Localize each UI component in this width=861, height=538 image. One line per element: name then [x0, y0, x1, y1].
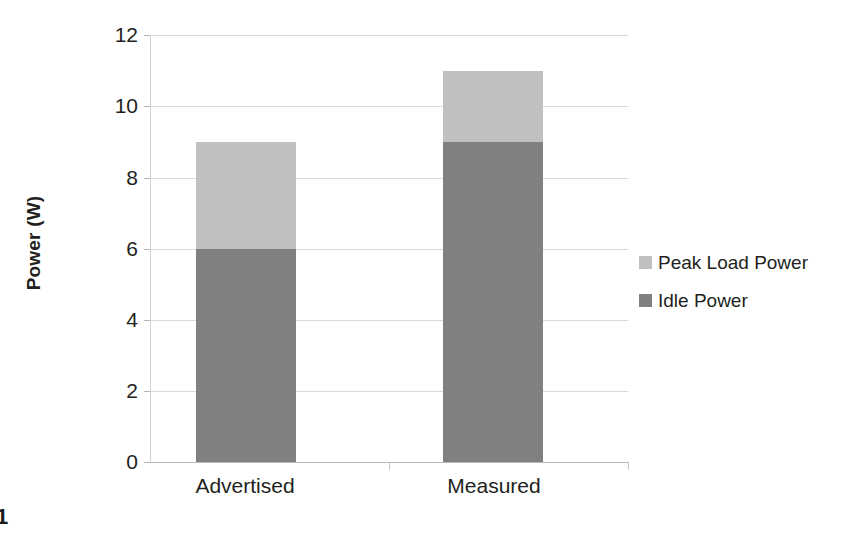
y-tick-6: 6 [60, 249, 138, 250]
bar-segment-advertised-idle[interactable] [196, 249, 296, 462]
gridline-12 [150, 35, 628, 36]
legend-item-peak-load-power[interactable]: Peak Load Power [639, 243, 808, 281]
y-tick-label-0: 0 [68, 451, 138, 472]
legend-item-idle-power[interactable]: Idle Power [639, 281, 808, 319]
x-tick-label-measured: Measured [374, 474, 614, 498]
legend-label-peak-load-power: Peak Load Power [658, 253, 808, 272]
y-axis-title: Power (W) [23, 163, 45, 323]
plot-area [150, 35, 628, 462]
y-tick-label-4: 4 [68, 309, 138, 330]
legend-swatch-icon-idle-power [639, 294, 652, 307]
bar-segment-measured-peak-load[interactable] [443, 71, 543, 142]
y-tick-label-8: 8 [68, 167, 138, 188]
y-tick-8: 8 [60, 178, 138, 179]
legend-swatch-icon-peak-load-power [639, 256, 652, 269]
y-tick-12: 12 [60, 35, 138, 36]
x-tickmark-mid [389, 462, 390, 470]
chart-legend: Peak Load Power Idle Power [639, 243, 808, 319]
y-tick-2: 2 [60, 391, 138, 392]
y-tick-0: 0 [60, 462, 138, 463]
y-tick-label-6: 6 [68, 238, 138, 259]
y-tick-label-10: 10 [68, 95, 138, 116]
bar-segment-measured-idle[interactable] [443, 142, 543, 462]
x-tickmark-right [628, 462, 629, 470]
gridline-10 [150, 106, 628, 107]
y-tick-label-2: 2 [68, 380, 138, 401]
caption-fragment: 1 [0, 506, 10, 532]
stacked-bar-chart-figure: Power (W) 12 10 8 6 4 2 0 [0, 0, 861, 538]
legend-label-idle-power: Idle Power [658, 291, 748, 310]
y-tick-label-12: 12 [68, 24, 138, 45]
y-tick-4: 4 [60, 320, 138, 321]
y-tick-10: 10 [60, 106, 138, 107]
bar-segment-advertised-peak-load[interactable] [196, 142, 296, 249]
x-tick-label-advertised: Advertised [125, 474, 365, 498]
